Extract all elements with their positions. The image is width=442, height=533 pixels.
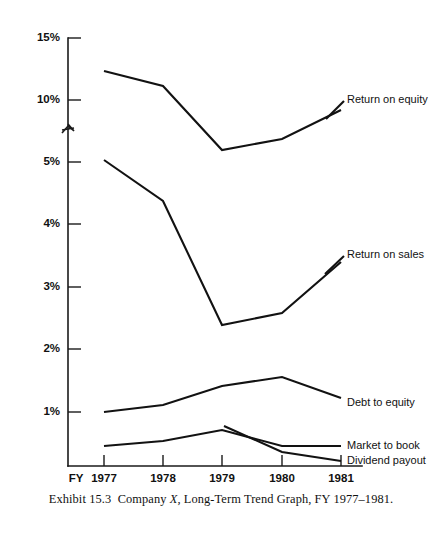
- series-return-on-equity: Return on equity: [104, 71, 428, 150]
- caption-company-label: Company: [118, 492, 167, 506]
- series-line-return-on-equity: [104, 71, 341, 150]
- x-axis-origin-label: FY: [69, 472, 84, 484]
- caption-prefix: Exhibit 15.3: [49, 492, 111, 506]
- y-tick-label-2: 2%: [43, 342, 60, 354]
- y-tick-label-1: 1%: [43, 405, 60, 417]
- y-tick-marks: [68, 38, 81, 412]
- series-market-to-book: Market to book: [104, 430, 420, 451]
- y-tick-label-4: 4%: [43, 217, 60, 229]
- trend-graph-figure: 15% 10% 5% 4% 3% 2% 1% FY 1977 1978 1979…: [0, 0, 442, 533]
- series-leader-return-on-equity: [326, 101, 344, 119]
- series-line-market-to-book: [104, 430, 341, 446]
- series-return-on-sales: Return on sales: [104, 160, 425, 325]
- series-label-dividend-payout: Dividend payout: [347, 454, 426, 466]
- y-tick-label-3: 3%: [43, 280, 60, 292]
- x-tick-label-1980: 1980: [269, 472, 295, 484]
- line-chart-canvas: 15% 10% 5% 4% 3% 2% 1% FY 1977 1978 1979…: [0, 0, 442, 533]
- series-label-debt-to-equity: Debt to equity: [347, 396, 415, 408]
- x-tick-labels: FY 1977 1978 1979 1980 1981: [69, 472, 355, 484]
- figure-caption: Exhibit 15.3 Company X, Long-Term Trend …: [0, 492, 442, 507]
- series-line-return-on-sales: [104, 160, 341, 325]
- series-label-return-on-equity: Return on equity: [347, 93, 428, 105]
- caption-rest: , Long-Term Trend Graph, FY 1977–1981.: [177, 492, 393, 506]
- y-tick-labels: 15% 10% 5% 4% 3% 2% 1%: [37, 31, 60, 417]
- x-tick-label-1978: 1978: [150, 472, 176, 484]
- y-tick-label-15: 15%: [37, 31, 60, 43]
- x-tick-label-1979: 1979: [209, 472, 235, 484]
- series-line-debt-to-equity: [104, 377, 341, 412]
- series-label-market-to-book: Market to book: [347, 439, 420, 451]
- series-label-return-on-sales: Return on sales: [347, 248, 425, 260]
- y-tick-label-5: 5%: [43, 155, 60, 167]
- series-leader-return-on-sales: [325, 256, 344, 274]
- axis-group: [62, 38, 362, 466]
- y-tick-label-10: 10%: [37, 93, 60, 105]
- series-debt-to-equity: Debt to equity: [104, 377, 415, 412]
- x-tick-marks: [104, 455, 341, 466]
- x-tick-label-1981: 1981: [328, 472, 354, 484]
- x-tick-label-1977: 1977: [91, 472, 117, 484]
